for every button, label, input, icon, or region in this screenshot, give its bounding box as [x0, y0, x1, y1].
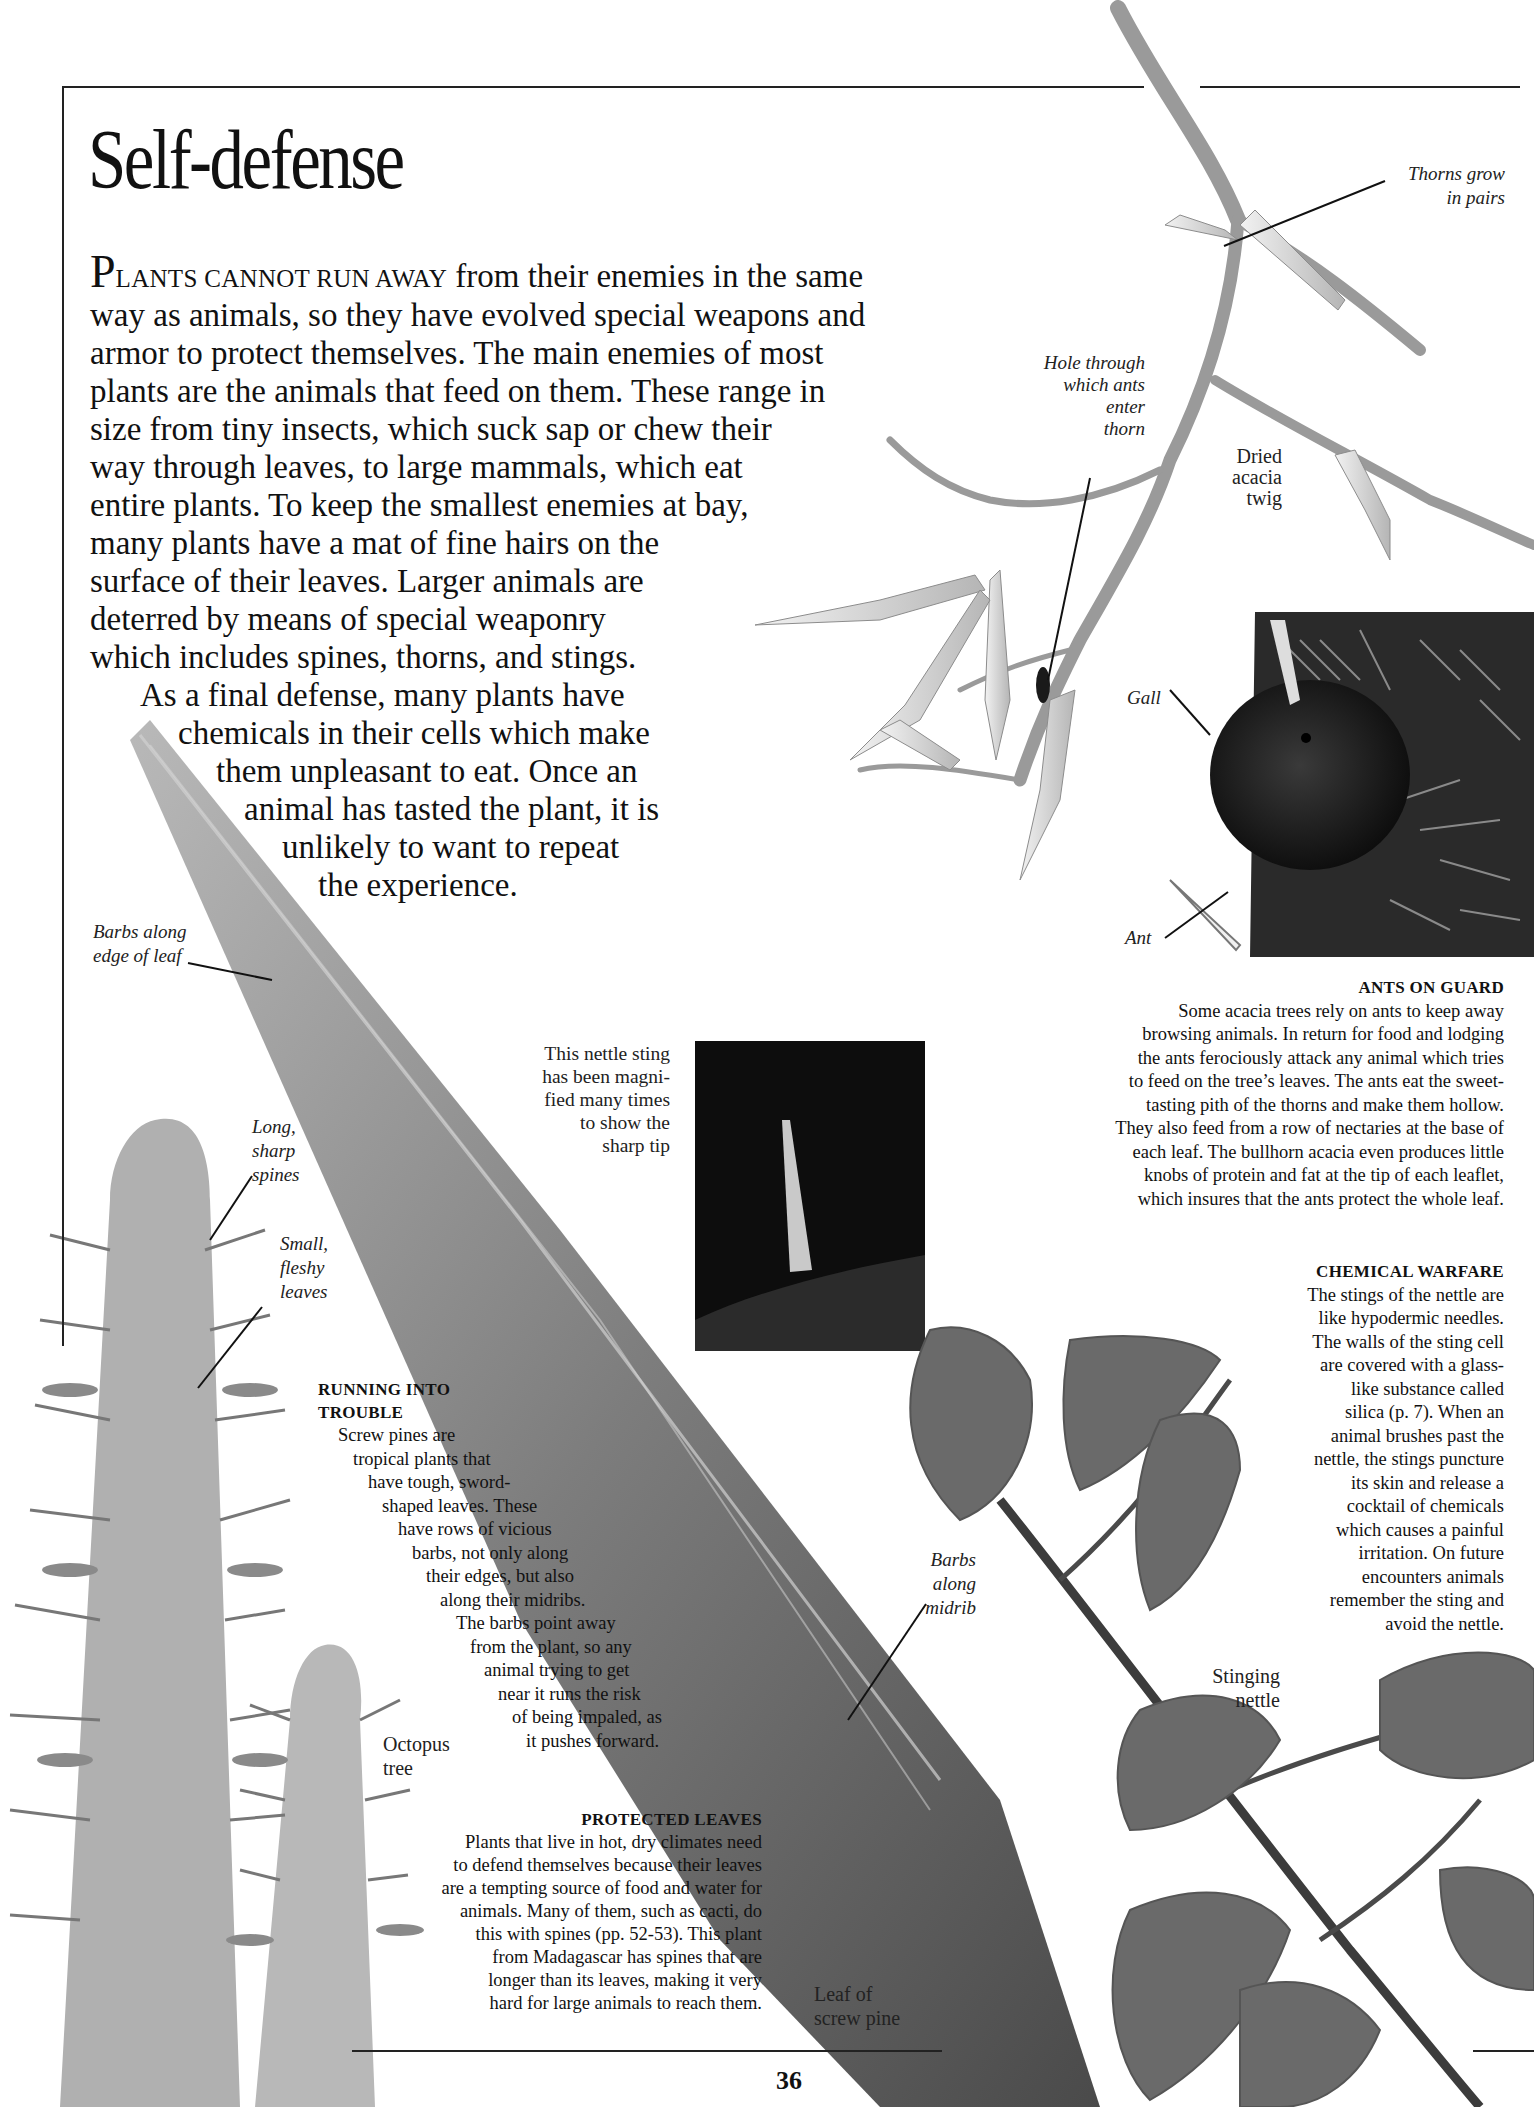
label-small-fleshy-leaves: Small, fleshy leaves	[280, 1232, 328, 1304]
chemical-warfare-heading: CHEMICAL WARFARE	[1240, 1260, 1504, 1284]
intro-line-1-text: from their enemies in the same	[447, 258, 863, 294]
nettle-sting-caption: This nettle sting has been magni- fied m…	[500, 1042, 670, 1157]
running-into-trouble-box: RUNNING INTO TROUBLE Screw pines are tro…	[318, 1378, 718, 1753]
protected-leaves-heading: PROTECTED LEAVES	[360, 1808, 762, 1831]
ants-on-guard-heading: ANTS ON GUARD	[1030, 976, 1504, 1000]
intro-line: size from tiny insects, which suck sap o…	[90, 409, 772, 449]
label-stinging-nettle: Stinging nettle	[1180, 1664, 1280, 1712]
label-thorns-grow-in-pairs: Thorns grow in pairs	[1340, 162, 1505, 210]
intro-line: deterred by means of special weaponry	[90, 599, 606, 639]
intro-smallcaps: LANTS CANNOT RUN AWAY	[116, 265, 447, 292]
intro-line: which includes spines, thorns, and sting…	[90, 637, 636, 677]
bottom-rule-left	[352, 2050, 942, 2052]
page-title: Self-defense	[88, 118, 403, 202]
protected-leaves-box: PROTECTED LEAVES Plants that live in hot…	[360, 1808, 762, 2015]
label-barbs-edge-of-leaf: Barbs along edge of leaf	[93, 920, 186, 968]
running-into-trouble-heading: RUNNING INTO TROUBLE	[318, 1378, 718, 1424]
gall-photo	[1170, 612, 1534, 957]
label-dried-acacia-twig: Dried acacia twig	[1200, 446, 1282, 509]
nettle-sting-photo	[695, 1041, 925, 1351]
ants-on-guard-box: ANTS ON GUARD Some acacia trees rely on …	[1030, 976, 1504, 1211]
label-leaf-of-screw-pine: Leaf of screw pine	[814, 1982, 900, 2030]
intro-line: them unpleasant to eat. Once an	[216, 751, 638, 791]
intro-dropcap: P	[90, 246, 116, 297]
top-rule-right	[1200, 86, 1520, 88]
intro-line: way as animals, so they have evolved spe…	[90, 295, 865, 335]
intro-line: surface of their leaves. Larger animals …	[90, 561, 644, 601]
intro-line: animal has tasted the plant, it is	[244, 789, 659, 829]
intro-line: way through leaves, to large mammals, wh…	[90, 447, 743, 487]
label-hole-through-thorn: Hole through which ants enter thorn	[1000, 352, 1145, 440]
top-rule-left	[62, 86, 1144, 88]
label-long-sharp-spines: Long, sharp spines	[252, 1115, 300, 1187]
chemical-warfare-box: CHEMICAL WARFARE The stings of the nettl…	[1240, 1260, 1504, 1636]
intro-line: many plants have a mat of fine hairs on …	[90, 523, 659, 563]
page-number: 36	[776, 2066, 802, 2096]
intro-line: armor to protect themselves. The main en…	[90, 333, 823, 373]
intro-line: the experience.	[318, 865, 518, 905]
intro-line-1: PLANTS CANNOT RUN AWAY from their enemie…	[90, 252, 863, 299]
intro-line: entire plants. To keep the smallest enem…	[90, 485, 748, 525]
label-ant: Ant	[1125, 926, 1151, 950]
intro-line: plants are the animals that feed on them…	[90, 371, 825, 411]
left-border	[62, 86, 64, 1346]
bottom-rule-right	[1473, 2050, 1534, 2052]
intro-line: unlikely to want to repeat	[282, 827, 619, 867]
label-gall: Gall	[1127, 686, 1161, 710]
intro-line: As a final defense, many plants have	[140, 675, 625, 715]
label-barbs-along-midrib: Barbs along midrib	[880, 1548, 976, 1620]
ant-hole-image	[1036, 667, 1050, 703]
intro-line: chemicals in their cells which make	[178, 713, 650, 753]
